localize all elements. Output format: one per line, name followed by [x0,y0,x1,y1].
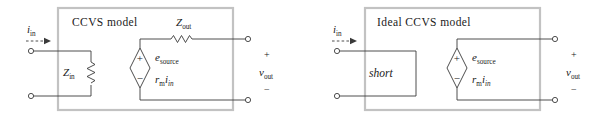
terminal-input-top [334,48,339,53]
panel-title: CCVS model [72,16,138,28]
input-impedance-resistor [87,62,95,83]
terminal-input-top [28,48,33,53]
source-plus-sign: + [454,52,460,64]
terminal-input-bottom [334,93,339,98]
input-current-label: iin [333,23,342,38]
output-impedance-label: Zout [176,16,191,31]
input-current-label: iin [27,23,36,38]
panel-ccvs-model: CCVS model iin Zin Zout [0,0,296,124]
terminal-output-top [245,36,250,41]
output-plus-sign: + [571,49,577,60]
output-minus-sign: − [571,84,577,95]
schematic-ccvs-model: CCVS model iin Zin Zout [0,0,296,124]
source-name-label: esource [472,51,496,66]
source-plus-sign: + [137,52,143,64]
terminal-output-top [552,36,557,41]
source-value-label: rmiin [155,73,174,88]
short-label: short [369,67,393,79]
output-impedance-resistor [171,36,192,43]
schematic-ideal-ccvs-model: Ideal CCVS model iin short + − esource r… [297,0,593,124]
terminal-input-bottom [28,93,33,98]
terminal-output-bottom [552,97,557,102]
panel-title: Ideal CCVS model [377,16,471,28]
output-voltage-label: vout [566,66,580,81]
output-minus-sign: − [264,84,270,95]
panel-ideal-ccvs-model: Ideal CCVS model iin short + − esource r… [297,0,593,124]
input-impedance-label: Zin [63,66,75,81]
output-voltage-label: vout [259,66,273,81]
input-current-arrow-head [350,38,357,44]
output-plus-sign: + [264,49,270,60]
source-name-label: esource [155,51,179,66]
terminal-output-bottom [245,97,250,102]
input-current-arrow-head [44,38,51,44]
ccvs-model-figure: CCVS model iin Zin Zout [0,0,593,124]
source-minus-sign: − [137,72,143,84]
source-value-label: rmiin [472,73,491,88]
source-minus-sign: − [454,72,460,84]
